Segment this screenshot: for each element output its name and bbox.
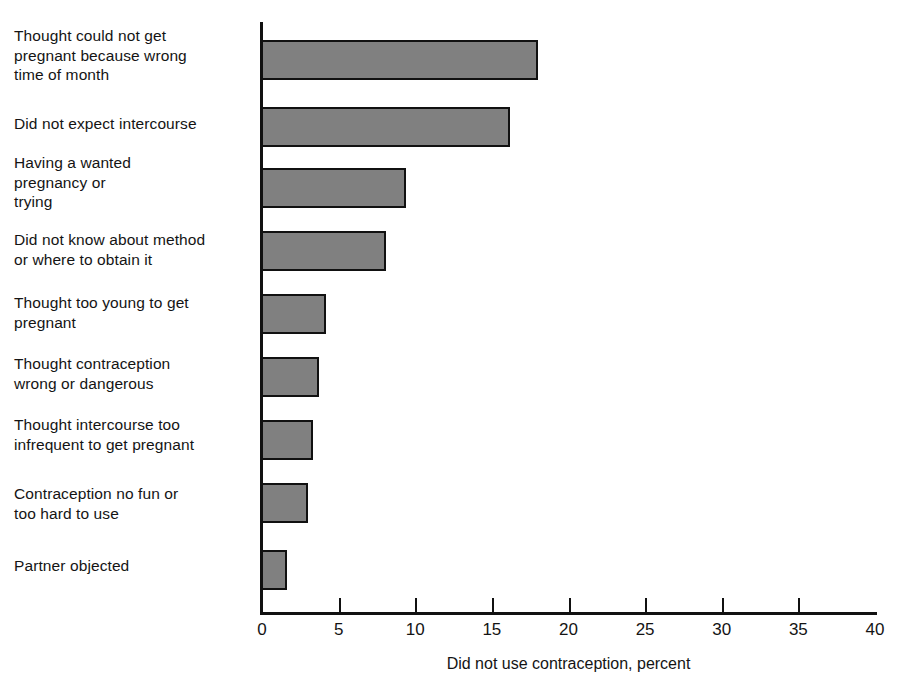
x-axis-line <box>260 612 877 615</box>
x-axis-tick-label: 0 <box>232 620 292 640</box>
x-axis-tick <box>339 598 341 612</box>
bar-chart: Thought could not get pregnant because w… <box>0 0 905 697</box>
x-axis-tick-label: 40 <box>845 620 905 640</box>
x-axis-tick <box>722 598 724 612</box>
bar <box>260 107 510 147</box>
x-axis-tick <box>492 598 494 612</box>
category-label: Thought could not get pregnant because w… <box>14 26 250 85</box>
category-label: Partner objected <box>14 556 250 576</box>
bar <box>260 168 406 208</box>
x-axis-tick-label: 35 <box>768 620 828 640</box>
x-axis-tick-label: 10 <box>385 620 445 640</box>
plot-area <box>262 22 875 613</box>
bar <box>260 294 326 334</box>
category-label: Contraception no fun or too hard to use <box>14 484 250 523</box>
category-label: Did not expect intercourse <box>14 114 250 134</box>
x-axis-tick-label: 30 <box>692 620 752 640</box>
x-axis-tick-label: 20 <box>539 620 599 640</box>
category-label: Thought intercourse too infrequent to ge… <box>14 415 250 454</box>
x-axis-tick <box>798 598 800 612</box>
x-axis-tick <box>569 598 571 612</box>
x-axis-tick-label: 5 <box>309 620 369 640</box>
x-axis-tick-label: 15 <box>462 620 522 640</box>
bar <box>260 550 287 590</box>
x-axis-tick <box>415 598 417 612</box>
category-label: Did not know about method or where to ob… <box>14 230 250 269</box>
bar <box>260 483 308 523</box>
y-axis-line <box>260 22 263 615</box>
x-axis-tick <box>645 598 647 612</box>
x-axis-title: Did not use contraception, percent <box>262 655 875 673</box>
bar <box>260 357 319 397</box>
bar <box>260 231 386 271</box>
category-label: Having a wanted pregnancy or trying <box>14 153 250 212</box>
bar <box>260 40 538 80</box>
x-axis-tick-label: 25 <box>615 620 675 640</box>
category-label: Thought contraception wrong or dangerous <box>14 354 250 393</box>
category-label: Thought too young to get pregnant <box>14 293 250 332</box>
bar <box>260 420 313 460</box>
